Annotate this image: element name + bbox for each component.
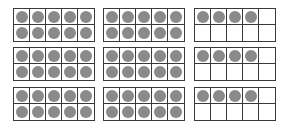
counter-dot-icon	[154, 106, 166, 118]
counter-dot-icon	[213, 11, 225, 23]
ten-frame-cell	[168, 48, 184, 64]
counter-dot-icon	[80, 90, 92, 102]
ten-frame-cell	[195, 48, 211, 64]
ten-frame	[194, 8, 276, 42]
ten-frame-cell	[78, 25, 94, 41]
ten-frame-cell	[14, 64, 30, 80]
counter-dot-icon	[80, 66, 92, 78]
counter-dot-icon	[48, 27, 60, 39]
ten-frame-cell	[259, 88, 275, 104]
counter-dot-icon	[64, 27, 76, 39]
ten-frame-cell	[46, 9, 62, 25]
ten-frame	[103, 47, 185, 81]
ten-frame-cell	[136, 64, 152, 80]
counter-dot-icon	[122, 50, 134, 62]
ten-frame-cell	[30, 88, 46, 104]
counter-dot-icon	[32, 11, 44, 23]
ten-frame-cell	[227, 9, 243, 25]
counter-dot-icon	[16, 50, 28, 62]
ten-frame-cell	[152, 104, 168, 120]
ten-frame-cell	[211, 88, 227, 104]
ten-frame-cell	[136, 9, 152, 25]
ten-frame-cell	[243, 64, 259, 80]
ten-frame-cell	[168, 9, 184, 25]
counter-dot-icon	[138, 50, 150, 62]
ten-frame-cell	[136, 88, 152, 104]
counter-dot-icon	[16, 27, 28, 39]
ten-frame-cell	[46, 48, 62, 64]
ten-frame-cell	[14, 104, 30, 120]
ten-frame-cell	[120, 64, 136, 80]
ten-frame-cell	[30, 64, 46, 80]
ten-frame-cell	[243, 104, 259, 120]
counter-dot-icon	[106, 66, 118, 78]
ten-frame-cell	[168, 88, 184, 104]
ten-frame-cell	[14, 9, 30, 25]
ten-frame-cell	[195, 25, 211, 41]
counter-dot-icon	[106, 106, 118, 118]
ten-frame-cell	[259, 104, 275, 120]
ten-frame-cell	[259, 9, 275, 25]
counter-dot-icon	[48, 90, 60, 102]
ten-frame-cell	[152, 9, 168, 25]
ten-frame-cell	[78, 104, 94, 120]
counter-dot-icon	[106, 11, 118, 23]
ten-frame-cell	[62, 64, 78, 80]
counter-dot-icon	[138, 11, 150, 23]
counter-dot-icon	[80, 27, 92, 39]
counter-dot-icon	[245, 50, 257, 62]
counter-dot-icon	[245, 90, 257, 102]
ten-frame-cell	[211, 9, 227, 25]
ten-frame-cell	[104, 104, 120, 120]
ten-frame-cell	[78, 48, 94, 64]
ten-frame-cell	[120, 48, 136, 64]
counter-dot-icon	[154, 50, 166, 62]
counter-dot-icon	[213, 90, 225, 102]
counter-dot-icon	[138, 27, 150, 39]
ten-frame-cell	[243, 9, 259, 25]
ten-frame-cell	[211, 25, 227, 41]
counter-dot-icon	[170, 66, 182, 78]
ten-frame-cell	[104, 9, 120, 25]
ten-frame-cell	[136, 25, 152, 41]
ten-frame-cell	[120, 88, 136, 104]
counter-dot-icon	[229, 50, 241, 62]
ten-frame-cell	[104, 25, 120, 41]
ten-frame-cell	[168, 25, 184, 41]
counter-dot-icon	[154, 66, 166, 78]
ten-frame-cell	[227, 88, 243, 104]
ten-frame-cell	[104, 88, 120, 104]
ten-frame-cell	[259, 64, 275, 80]
counter-dot-icon	[245, 11, 257, 23]
counter-dot-icon	[16, 11, 28, 23]
counter-dot-icon	[64, 90, 76, 102]
ten-frame-cell	[152, 48, 168, 64]
counter-dot-icon	[32, 106, 44, 118]
counter-dot-icon	[138, 90, 150, 102]
counter-dot-icon	[170, 106, 182, 118]
counter-dot-icon	[48, 106, 60, 118]
counter-dot-icon	[80, 50, 92, 62]
ten-frame-cell	[152, 64, 168, 80]
counter-dot-icon	[170, 27, 182, 39]
ten-frame-cell	[62, 48, 78, 64]
counter-dot-icon	[80, 11, 92, 23]
ten-frame-cell	[259, 48, 275, 64]
ten-frame-cell	[46, 88, 62, 104]
counter-dot-icon	[16, 90, 28, 102]
ten-frame-cell	[227, 48, 243, 64]
ten-frame-cell	[168, 64, 184, 80]
ten-frame-cell	[78, 88, 94, 104]
ten-frame-cell	[104, 64, 120, 80]
ten-frame-cell	[259, 25, 275, 41]
counter-dot-icon	[48, 66, 60, 78]
counter-dot-icon	[122, 11, 134, 23]
counter-dot-icon	[16, 66, 28, 78]
counter-dot-icon	[170, 11, 182, 23]
counter-dot-icon	[154, 11, 166, 23]
ten-frame-cell	[62, 25, 78, 41]
ten-frame-cell	[152, 25, 168, 41]
ten-frame-cell	[120, 9, 136, 25]
counter-dot-icon	[48, 11, 60, 23]
counter-dot-icon	[64, 11, 76, 23]
